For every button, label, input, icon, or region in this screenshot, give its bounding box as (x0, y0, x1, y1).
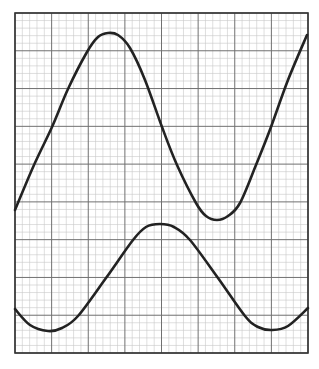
line-chart (0, 0, 319, 369)
